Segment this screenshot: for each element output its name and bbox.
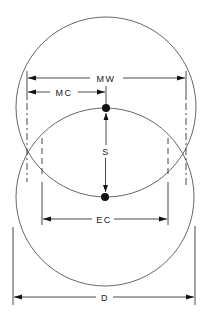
overlapping-circles-diagram: MW MC S EC D [0,0,208,315]
arrow-left-icon [14,295,22,300]
top-center-dot [102,104,110,112]
arrow-right-icon [159,217,167,222]
bottom-center-dot [101,193,109,201]
arrow-left-icon [28,76,36,81]
arrow-left-icon [28,90,36,95]
ec-label: EC [96,215,112,225]
d-label: D [101,293,109,303]
arrow-right-icon [97,90,105,95]
arrow-right-icon [177,76,185,81]
arrow-up-icon [104,113,109,120]
arrow-right-icon [186,295,194,300]
arrow-left-icon [43,217,51,222]
mw-label: MW [97,74,116,84]
arrow-down-icon [103,185,108,192]
s-label: S [102,147,110,157]
mc-label: MC [56,88,73,98]
